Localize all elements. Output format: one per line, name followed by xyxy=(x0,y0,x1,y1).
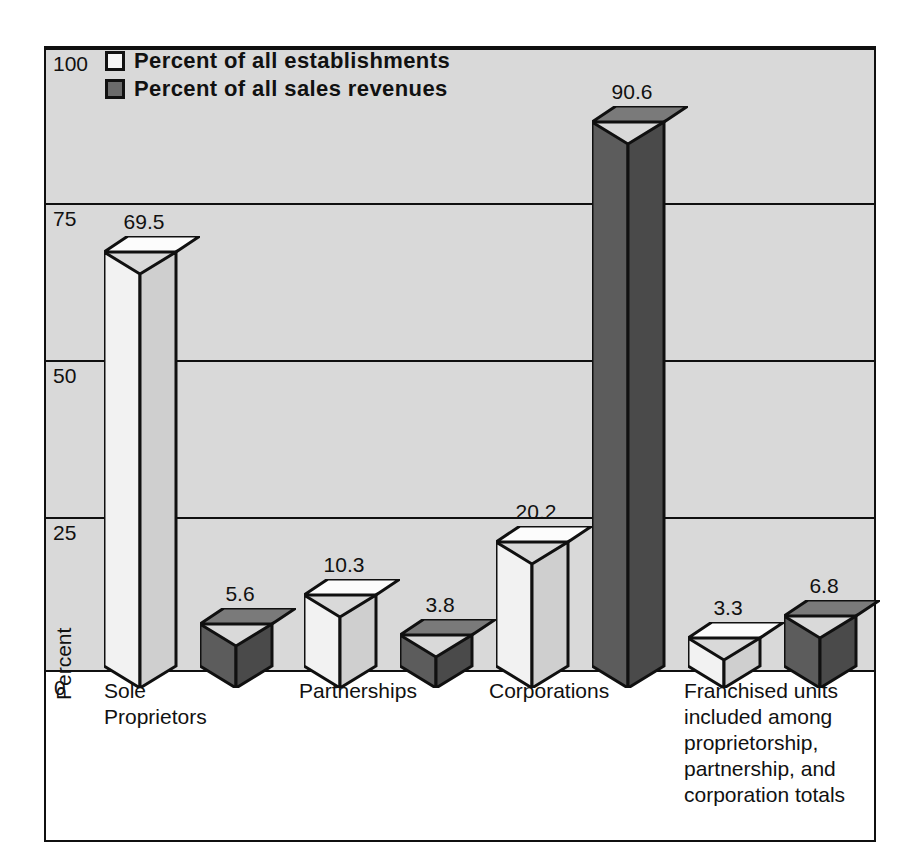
xlabel-line: Franchised units xyxy=(684,678,845,704)
bar-sales-sole-proprietors xyxy=(200,608,296,688)
value-label-establishments-franchised: 3.3 xyxy=(688,596,768,620)
bar-sales-corporations xyxy=(592,106,688,688)
gridline-75 xyxy=(46,203,874,205)
legend: Percent of all establishments Percent of… xyxy=(105,48,450,104)
legend-item-establishments: Percent of all establishments xyxy=(105,48,450,74)
legend-swatch-light-icon xyxy=(105,51,125,71)
value-label-establishments-partnerships: 10.3 xyxy=(304,553,384,577)
xlabel-line: included among xyxy=(684,704,845,730)
xlabel-line: partnership, and xyxy=(684,756,845,782)
bar-establishments-corporations xyxy=(496,526,592,688)
bar-shape xyxy=(104,236,200,688)
value-label-sales-corporations: 90.6 xyxy=(592,80,672,104)
xlabel-line: Sole xyxy=(104,678,207,704)
bar-shape xyxy=(784,600,880,688)
bar-shape xyxy=(200,608,296,688)
xlabel-line: Corporations xyxy=(489,678,609,704)
bar-sales-franchised xyxy=(784,600,880,688)
xlabel-line: Proprietors xyxy=(104,704,207,730)
ytick-label-75: 75 xyxy=(53,208,76,229)
xlabel-sole-proprietors: Sole Proprietors xyxy=(104,678,207,730)
legend-item-sales-revenues: Percent of all sales revenues xyxy=(105,76,450,102)
x-axis-labels: Sole Proprietors Partnerships Corporatio… xyxy=(46,678,874,838)
xlabel-line: Partnerships xyxy=(299,678,417,704)
xlabel-franchised-units: Franchised units included among propriet… xyxy=(684,678,845,808)
ytick-label-100: 100 xyxy=(53,53,88,74)
xlabel-line: corporation totals xyxy=(684,782,845,808)
xlabel-partnerships: Partnerships xyxy=(299,678,417,704)
ytick-label-25: 25 xyxy=(53,522,76,543)
bar-establishments-partnerships xyxy=(304,579,400,688)
value-label-sales-partnerships: 3.8 xyxy=(400,593,480,617)
xlabel-line: proprietorship, xyxy=(684,730,845,756)
value-label-sales-franchised: 6.8 xyxy=(784,574,864,598)
value-label-establishments-corporations: 20.2 xyxy=(496,500,576,524)
xlabel-corporations: Corporations xyxy=(489,678,609,704)
bar-shape xyxy=(496,526,592,688)
chart-screenshot: 100 75 50 25 0 Percent Percent of all es… xyxy=(0,0,911,860)
value-label-establishments-sole-proprietors: 69.5 xyxy=(104,210,184,234)
ytick-label-50: 50 xyxy=(53,365,76,386)
legend-swatch-dark-icon xyxy=(105,79,125,99)
legend-label-sales-revenues: Percent of all sales revenues xyxy=(134,76,448,102)
bar-establishments-sole-proprietors xyxy=(104,236,200,688)
legend-label-establishments: Percent of all establishments xyxy=(134,48,450,74)
bar-shape xyxy=(592,106,688,688)
value-label-sales-sole-proprietors: 5.6 xyxy=(200,582,280,606)
bar-shape xyxy=(304,579,400,688)
